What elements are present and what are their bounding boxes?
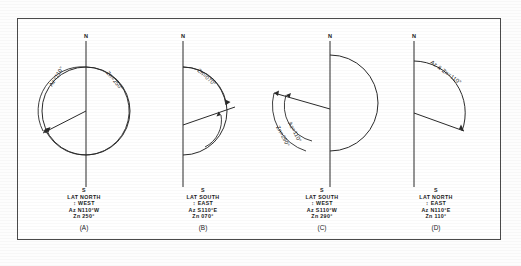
zenith-line: Zn 290°	[262, 213, 382, 220]
azimuth-line: Az S110°E	[143, 207, 263, 214]
latitude-line: LAT NORTH	[24, 194, 144, 201]
panel-c-diagram: N Az=110° Zn=290°	[262, 19, 382, 199]
horizon-arc	[414, 61, 465, 131]
latitude-line: LAT NORTH	[376, 194, 496, 201]
south-label: S	[24, 187, 144, 194]
azimuth-line: Az N110°W	[24, 207, 144, 214]
azimuth-arc	[205, 115, 221, 147]
direction-line	[274, 93, 330, 109]
south-label: S	[143, 187, 263, 194]
zenith-arrowhead	[274, 91, 279, 97]
declination-line: ↕ EAST	[376, 200, 496, 207]
panel-d-diagram: N Az & Zn=110°	[376, 19, 496, 199]
latitude-line: LAT SOUTH	[143, 194, 263, 201]
north-label: N	[84, 33, 88, 39]
panel-c-letter: (C)	[262, 224, 382, 231]
panel-a-caption: S LAT NORTH ↕ WEST Az N110°W Zn 250°	[24, 187, 144, 220]
north-label: N	[412, 33, 416, 39]
declination-line: ↕ EAST	[143, 200, 263, 207]
declination-line: ↕ WEST	[262, 200, 382, 207]
zenith-line: Zn 110°	[376, 213, 496, 220]
figure-frame: N Az=110° Zn=250° S LAT NORTH ↕ WEST Az …	[17, 18, 501, 240]
horizon-semicircle	[183, 67, 227, 155]
zenith-line: Zn 250°	[24, 213, 144, 220]
azimuth-arc	[38, 67, 86, 131]
direction-line	[414, 113, 464, 131]
azimuth-line: Az N110°E	[376, 207, 496, 214]
horizon-semicircle	[330, 55, 378, 151]
panel-d-azimuth-zenith-arc-label: Az & Zn=110°	[429, 59, 462, 85]
panel-a-letter: (A)	[24, 224, 144, 231]
panel-b-caption: S LAT SOUTH ↕ EAST Az S110°E Zn 070°	[143, 187, 263, 220]
panel-b-diagram: N Zn=070°	[143, 19, 263, 199]
panel-b: N Zn=070° S LAT SOUTH ↕ EAST Az S110°E Z…	[143, 19, 263, 241]
north-label: N	[328, 33, 332, 39]
zenith-line: Zn 070°	[143, 213, 263, 220]
latitude-line: LAT SOUTH	[262, 194, 382, 201]
panel-b-letter: (B)	[143, 224, 263, 231]
south-label: S	[262, 187, 382, 194]
panel-a-diagram: N Az=110° Zn=250°	[24, 19, 144, 199]
panel-a: N Az=110° Zn=250° S LAT NORTH ↕ WEST Az …	[24, 19, 144, 241]
panel-c-zenith-arc-label: Zn=290°	[275, 125, 291, 148]
declination-line: ↕ WEST	[24, 200, 144, 207]
south-label: S	[376, 187, 496, 194]
panel-d: N Az & Zn=110° S LAT NORTH ↕ EAST Az N11…	[376, 19, 496, 241]
north-label: N	[181, 33, 185, 39]
panel-c-caption: S LAT SOUTH ↕ WEST Az S110°W Zn 290°	[262, 187, 382, 220]
panel-a-azimuth-arc-label: Az=110°	[48, 65, 65, 87]
panel-c: N Az=110° Zn=290° S LAT SOUTH ↕ WEST Az …	[262, 19, 382, 241]
azimuth-line: Az S110°W	[262, 207, 382, 214]
figure-canvas: N Az=110° Zn=250° S LAT NORTH ↕ WEST Az …	[0, 0, 521, 266]
panel-d-letter: (D)	[376, 224, 496, 231]
panel-b-zenith-arc-label: Zn=070°	[196, 67, 217, 87]
panel-a-zenith-arc-label: Zn=250°	[105, 70, 124, 91]
panel-d-caption: S LAT NORTH ↕ EAST Az N110°E Zn 110°	[376, 187, 496, 220]
